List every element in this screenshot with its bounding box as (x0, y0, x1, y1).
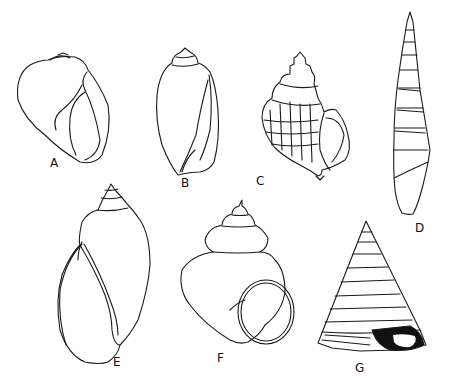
label-e: E (113, 356, 121, 368)
shell-figure: A B C D E F G (0, 0, 458, 384)
shell-drawings (0, 0, 458, 384)
label-g: G (355, 362, 364, 374)
shell-a-drawing (18, 53, 110, 163)
label-b: B (181, 177, 189, 189)
shell-e-drawing (58, 184, 150, 364)
shell-f-drawing (181, 200, 294, 344)
label-f: F (217, 352, 224, 364)
label-c: C (256, 175, 264, 187)
shell-b-drawing (157, 48, 219, 175)
shell-d-drawing (394, 12, 430, 214)
shell-g-drawing (318, 221, 426, 351)
label-d: D (415, 222, 424, 234)
shell-c-drawing (262, 52, 349, 180)
label-a: A (50, 157, 58, 169)
